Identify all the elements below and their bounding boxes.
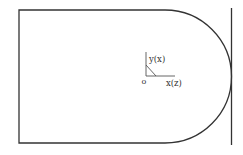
coordinate-frame: y(x) o x(z) (142, 52, 182, 88)
vertical-axis-label: y(x) (148, 54, 165, 64)
enclosure-outline (19, 10, 232, 143)
origin-label: o (142, 77, 147, 86)
horizontal-axis-label: x(z) (166, 78, 182, 88)
diagonal-line (146, 65, 156, 76)
diagram-svg: y(x) o x(z) (0, 0, 243, 155)
diagram-canvas: y(x) o x(z) (0, 0, 243, 155)
